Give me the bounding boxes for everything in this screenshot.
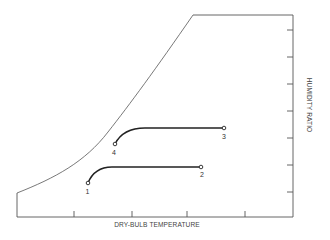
state-point-1 bbox=[86, 181, 90, 185]
process-line-1-2 bbox=[88, 167, 201, 183]
y-axis-label: HUMIDITY RATIO bbox=[306, 78, 313, 133]
state-point-2 bbox=[199, 165, 203, 169]
y-axis-ticks bbox=[287, 30, 293, 192]
process-line-4-3 bbox=[115, 128, 224, 144]
x-axis-ticks bbox=[74, 211, 245, 217]
point-label-3: 3 bbox=[222, 133, 226, 140]
psychrometric-chart: 1 2 3 4 DRY-BULB TEMPERATURE HUMIDITY RA… bbox=[0, 0, 330, 240]
state-point-3 bbox=[222, 126, 226, 130]
point-label-4: 4 bbox=[112, 149, 116, 156]
state-point-4 bbox=[113, 142, 117, 146]
point-label-1: 1 bbox=[86, 188, 90, 195]
point-label-2: 2 bbox=[200, 171, 204, 178]
x-axis-label: DRY-BULB TEMPERATURE bbox=[114, 221, 200, 228]
chart-frame bbox=[17, 15, 293, 217]
